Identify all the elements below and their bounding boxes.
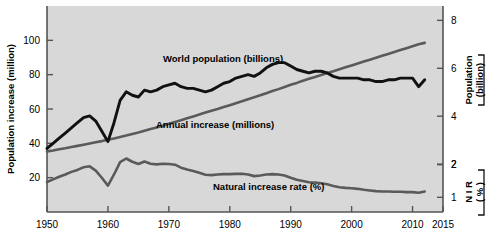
bottom-tick-label: 2010	[401, 219, 424, 230]
right-lower-axis-title-line1: N I R	[463, 181, 474, 203]
right-lower-axis-title-line2: ( % )	[474, 182, 485, 202]
population-growth-chart: 20406080100 1950196019701980199020002010…	[0, 0, 500, 247]
annual-increase-label: Annual increase (millions)	[156, 119, 274, 130]
bottom-tick-label: 1950	[36, 219, 59, 230]
left-tick-label: 20	[29, 172, 41, 183]
right-upper-axis-title-line1: Population	[463, 55, 474, 104]
bottom-tick-label: 1970	[158, 219, 181, 230]
bottom-tick-label: 1980	[219, 219, 242, 230]
right-upper-tick-label: 6	[451, 63, 457, 74]
left-tick-label: 80	[29, 69, 41, 80]
left-axis-title: Population increase (million)	[5, 44, 16, 174]
bottom-tick-label: 1960	[97, 219, 120, 230]
bottom-tick-label: 2000	[340, 219, 363, 230]
right-lower-tick-label: 1	[451, 192, 457, 203]
left-tick-label: 60	[29, 104, 41, 115]
bottom-tick-label: 2015	[432, 219, 455, 230]
right-upper-tick-label: 4	[451, 111, 457, 122]
chart-figure: 20406080100 1950196019701980199020002010…	[0, 0, 500, 247]
right-upper-axis-title-line2: (billion)	[474, 63, 485, 97]
bottom-tick-label: 1990	[280, 219, 303, 230]
left-tick-label: 100	[23, 35, 40, 46]
natural-increase-rate-label: Natural increase rate (%)	[213, 181, 324, 192]
world-population-label: World population (billions)	[163, 53, 283, 64]
right-lower-tick-label: 2	[451, 159, 457, 170]
left-tick-label: 40	[29, 138, 41, 149]
right-upper-tick-label: 8	[451, 15, 457, 26]
